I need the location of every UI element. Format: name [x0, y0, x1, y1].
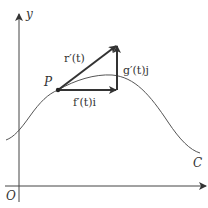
- tangent-vector-label: r′(t): [64, 52, 85, 65]
- point-p-marker: [56, 88, 60, 92]
- diagram-canvas: y O P C r′(t) f′(t)i g′(t)j: [0, 0, 208, 208]
- origin-label: O: [6, 189, 16, 203]
- curve-c-label: C: [193, 156, 202, 170]
- vertical-vector-label: g′(t)j: [123, 64, 149, 77]
- curve-c: [6, 75, 200, 153]
- y-axis-label: y: [25, 7, 33, 21]
- point-p-label: P: [43, 75, 53, 89]
- horizontal-vector-label: f′(t)i: [73, 96, 97, 109]
